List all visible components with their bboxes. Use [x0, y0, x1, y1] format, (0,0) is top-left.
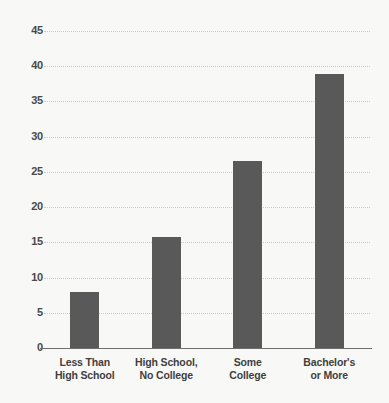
bar[interactable]: [315, 74, 344, 348]
x-label-line: College: [207, 369, 289, 382]
y-tick-label-10: 10: [3, 271, 43, 283]
bar[interactable]: [233, 161, 262, 348]
x-label-line: Bachelor's: [289, 356, 371, 369]
chart-title-clipped: [44, 0, 344, 3]
x-axis-line: [40, 348, 372, 349]
y-tick-label-30: 30: [3, 130, 43, 142]
x-label-line: No College: [126, 369, 208, 382]
y-tick-label-40: 40: [3, 59, 43, 71]
x-label-line: High School,: [126, 356, 208, 369]
y-tick-label-45: 45: [3, 24, 43, 36]
gridline-40: [44, 66, 370, 68]
gridline-45: [44, 31, 370, 33]
x-axis-label: High School,No College: [126, 356, 208, 381]
bar[interactable]: [70, 292, 99, 348]
x-axis-label: Bachelor'sor More: [289, 356, 371, 381]
y-tick-label-25: 25: [3, 165, 43, 177]
y-tick-label-15: 15: [3, 235, 43, 247]
x-label-line: High School: [44, 369, 126, 382]
plot-area: 051015202530354045 Less ThanHigh SchoolH…: [44, 31, 370, 348]
y-tick-label-0: 0: [3, 341, 43, 353]
x-axis-label: SomeCollege: [207, 356, 289, 381]
x-label-line: Some: [207, 356, 289, 369]
bar-chart: 051015202530354045 Less ThanHigh SchoolH…: [0, 0, 389, 403]
x-label-line: or More: [289, 369, 371, 382]
y-tick-label-5: 5: [3, 306, 43, 318]
bar[interactable]: [152, 237, 181, 348]
y-tick-label-20: 20: [3, 200, 43, 212]
x-axis-label: Less ThanHigh School: [44, 356, 126, 381]
y-tick-label-35: 35: [3, 94, 43, 106]
x-label-line: Less Than: [44, 356, 126, 369]
